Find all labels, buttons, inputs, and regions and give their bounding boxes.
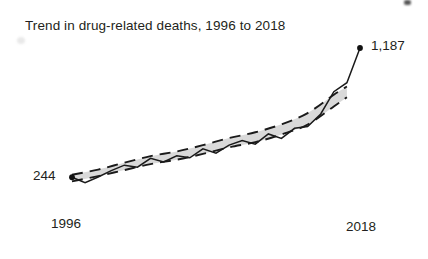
end-value-label: 1,187 (371, 38, 405, 53)
x-axis-label-start: 1996 (51, 216, 81, 231)
x-axis-label-end: 2018 (346, 219, 376, 234)
start-value-label: 244 (33, 168, 56, 183)
chart-figure: Trend in drug-related deaths, 1996 to 20… (0, 0, 428, 259)
confidence-band (72, 87, 347, 182)
